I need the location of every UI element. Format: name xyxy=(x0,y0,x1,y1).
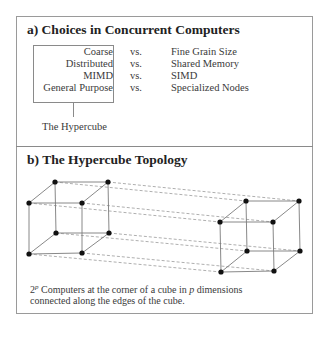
computer-nodes xyxy=(26,179,302,274)
caption-text-end: dimensions xyxy=(194,284,242,295)
right-cube-edges xyxy=(220,201,300,272)
caption-text: Computers at the corner of a cube in xyxy=(39,284,190,295)
left-cube-edges xyxy=(29,182,109,254)
caption-line-1: 2p Computers at the corner of a cube in … xyxy=(30,283,242,295)
dashed-dimension-edges xyxy=(29,182,300,272)
caption-line-2: connected along the edges of the cube. xyxy=(30,295,185,306)
